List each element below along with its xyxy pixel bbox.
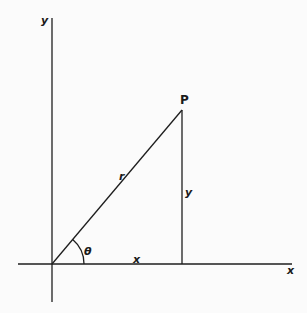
angle-arc — [73, 240, 84, 265]
y-axis-label: y — [41, 14, 49, 27]
radius-line — [52, 110, 182, 264]
horizontal-side-label: x — [132, 253, 141, 266]
x-axis-label: x — [286, 264, 295, 277]
radius-label: r — [119, 170, 125, 183]
point-p-label: P — [180, 93, 189, 107]
polar-coordinate-diagram: y x P r y x θ — [0, 0, 307, 313]
angle-theta-label: θ — [84, 245, 92, 258]
vertical-side-label: y — [185, 186, 193, 199]
